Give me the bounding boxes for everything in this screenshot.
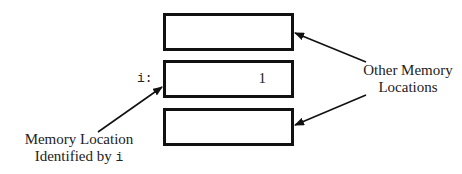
arrow-to-cell-top <box>295 33 366 62</box>
arrow-to-cell-i <box>98 87 162 132</box>
left-callout-label: Memory Location Identified by i <box>24 131 134 166</box>
memory-diagram: 1 i: Memory Location Identified by i Oth… <box>0 0 462 174</box>
right-callout-label: Other Memory Locations <box>358 62 458 96</box>
arrow-to-cell-bottom <box>295 95 366 125</box>
